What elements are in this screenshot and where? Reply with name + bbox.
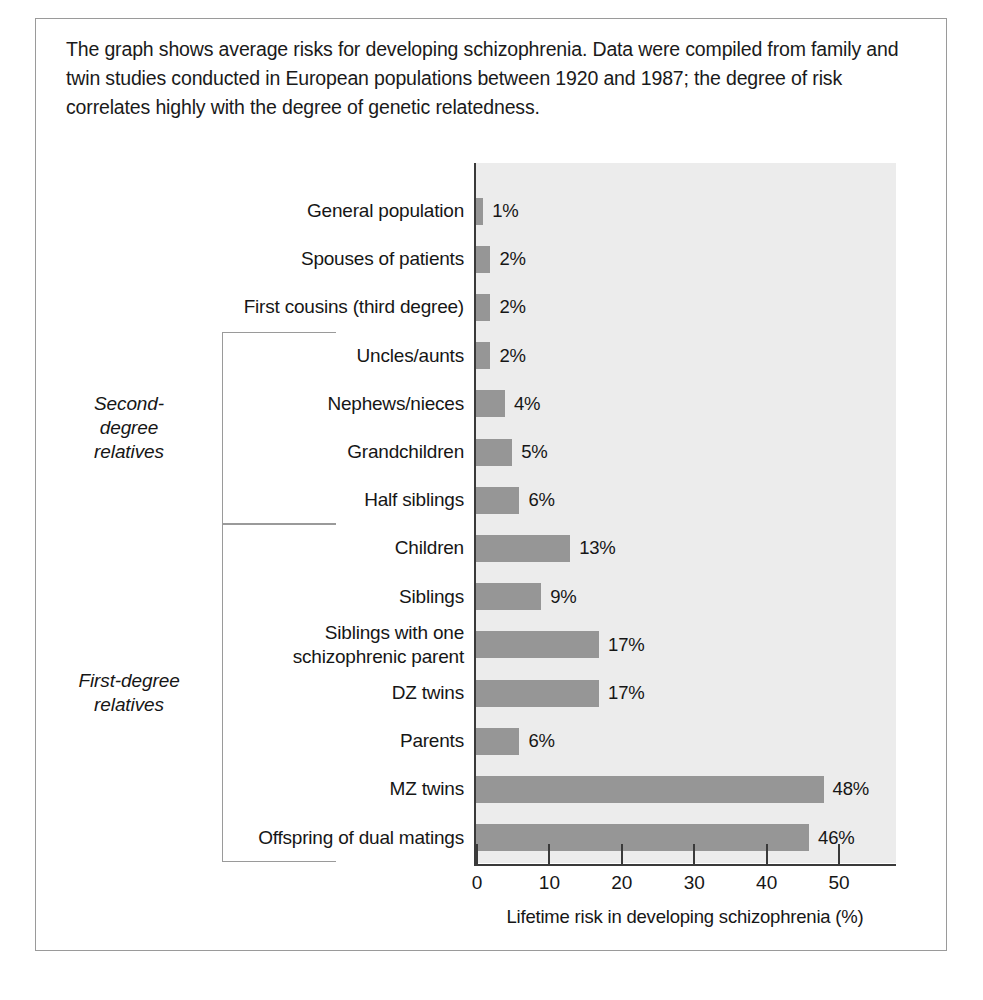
x-tick-label: 50 (828, 872, 849, 894)
x-tick-mark (693, 844, 695, 865)
figure-frame: The graph shows average risks for develo… (35, 18, 947, 951)
x-tick-label: 20 (611, 872, 632, 894)
category-label: General population (104, 199, 464, 223)
x-tick-mark (838, 844, 840, 865)
bar (476, 776, 824, 803)
category-label: Spouses of patients (104, 247, 464, 271)
bar-value-label: 2% (499, 248, 525, 270)
plot-area (474, 163, 896, 863)
figure-caption: The graph shows average risks for develo… (66, 35, 911, 122)
bar-value-label: 17% (608, 682, 644, 704)
group-bracket (222, 332, 336, 525)
bar-value-label: 5% (521, 441, 547, 463)
x-tick-mark (548, 844, 550, 865)
group-label: First-degreerelatives (44, 669, 214, 717)
bar-value-label: 17% (608, 634, 644, 656)
x-tick-mark (766, 844, 768, 865)
bar (476, 824, 809, 851)
bar-value-label: 2% (499, 345, 525, 367)
group-bracket (222, 524, 336, 861)
chart-region: 1%2%2%2%4%5%6%13%9%17%17%6%48%46% Genera… (36, 131, 946, 951)
x-tick-mark (476, 844, 478, 865)
group-label-line: relatives (44, 440, 214, 464)
bar (476, 342, 490, 369)
bar (476, 631, 599, 658)
bar-value-label: 46% (818, 827, 854, 849)
group-label-line: relatives (44, 693, 214, 717)
bar (476, 583, 541, 610)
bar (476, 680, 599, 707)
group-label-line: First-degree (44, 669, 214, 693)
bar (476, 246, 490, 273)
category-label-line: Spouses of patients (104, 247, 464, 271)
bar-value-label: 9% (550, 586, 576, 608)
x-tick-mark (621, 844, 623, 865)
bar (476, 439, 512, 466)
x-axis-line (474, 864, 896, 866)
bar-value-label: 1% (492, 200, 518, 222)
x-tick-label: 0 (472, 872, 483, 894)
bar-value-label: 6% (528, 489, 554, 511)
bar (476, 535, 570, 562)
group-label: Second-degreerelatives (44, 392, 214, 464)
bar-value-label: 2% (499, 296, 525, 318)
bar-value-label: 13% (579, 537, 615, 559)
group-label-line: Second- (44, 392, 214, 416)
bar-value-label: 4% (514, 393, 540, 415)
bar (476, 728, 519, 755)
x-tick-label: 40 (756, 872, 777, 894)
category-label-line: First cousins (third degree) (104, 295, 464, 319)
category-label-line: General population (104, 199, 464, 223)
bar-value-label: 6% (528, 730, 554, 752)
bar-value-label: 48% (833, 778, 869, 800)
bar (476, 390, 505, 417)
x-tick-label: 10 (539, 872, 560, 894)
category-label: First cousins (third degree) (104, 295, 464, 319)
bar (476, 198, 483, 225)
bar (476, 294, 490, 321)
group-label-line: degree (44, 416, 214, 440)
bar (476, 487, 519, 514)
x-tick-label: 30 (684, 872, 705, 894)
x-axis-title: Lifetime risk in developing schizophreni… (474, 906, 896, 928)
